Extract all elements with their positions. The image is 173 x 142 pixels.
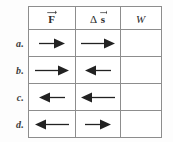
- arrow-right-short-icon: [29, 30, 75, 56]
- table-header-row: F Δ s: [28, 7, 161, 30]
- cell-work-b[interactable]: [120, 57, 161, 84]
- row-label-c: c.: [17, 92, 24, 103]
- column-header-force: F: [28, 7, 75, 30]
- figure-container: F Δ s: [0, 0, 173, 142]
- arrow-right-long-icon: [76, 30, 120, 56]
- table-row: a.: [28, 30, 161, 57]
- cell-force-a: [28, 30, 75, 57]
- arrow-right-short-icon: [76, 111, 120, 137]
- row-label-a: a.: [16, 38, 24, 49]
- cell-force-c: [28, 84, 75, 111]
- cell-force-b: [28, 57, 75, 84]
- force-vector-symbol: F: [48, 13, 55, 25]
- cell-displacement-a: [75, 30, 120, 57]
- cell-displacement-b: [75, 57, 120, 84]
- arrow-left-short-icon: [76, 57, 120, 83]
- displacement-vector-symbol: s: [101, 13, 105, 25]
- column-header-work-label: W: [136, 14, 145, 25]
- row-label-d: d.: [16, 119, 24, 130]
- delta-symbol: Δ: [90, 13, 97, 25]
- cell-work-c[interactable]: [120, 84, 161, 111]
- cell-force-d: [28, 111, 75, 138]
- row-label-b: b.: [16, 65, 24, 76]
- arrow-left-long-icon: [76, 84, 120, 110]
- cell-displacement-d: [75, 111, 120, 138]
- column-header-force-label: F: [48, 13, 55, 25]
- arrow-left-short-icon: [29, 84, 75, 110]
- force-displacement-work-table: F Δ s: [28, 6, 162, 138]
- column-header-displacement-label: s: [101, 13, 105, 25]
- table-row: b.: [28, 57, 161, 84]
- cell-work-a[interactable]: [120, 30, 161, 57]
- cell-work-d[interactable]: [120, 111, 161, 138]
- table-row: c.: [28, 84, 161, 111]
- table-row: d.: [28, 111, 161, 138]
- column-header-work: W: [120, 7, 161, 30]
- arrow-left-long-icon: [29, 111, 75, 137]
- column-header-displacement: Δ s: [75, 7, 120, 30]
- cell-displacement-c: [75, 84, 120, 111]
- arrow-right-long-icon: [29, 57, 75, 83]
